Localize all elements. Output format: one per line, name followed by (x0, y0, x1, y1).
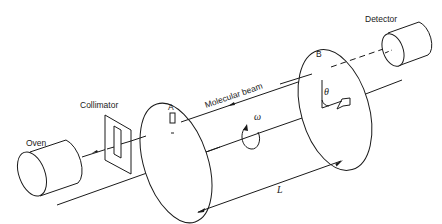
collimator (105, 115, 131, 174)
label-length: L (276, 184, 283, 195)
length-arrow (197, 160, 344, 213)
oven (12, 140, 82, 200)
label-oven: Oven (26, 138, 47, 148)
label-theta: θ (324, 86, 329, 97)
disk-b (280, 41, 385, 179)
upper-shaft (206, 147, 220, 152)
disk-a (126, 94, 225, 224)
detector (378, 22, 432, 69)
label-molecular-beam: Molecular beam (203, 81, 263, 110)
beam-oven-to-collimator (82, 149, 107, 157)
label-detector: Detector (365, 14, 397, 24)
label-disk-a: A (168, 102, 174, 112)
label-disk-b: B (316, 49, 322, 59)
diagram-canvas: Oven Collimator A Molecular beam B Detec… (0, 0, 442, 224)
label-collimator: Collimator (80, 100, 118, 110)
label-omega: ω (254, 111, 261, 122)
